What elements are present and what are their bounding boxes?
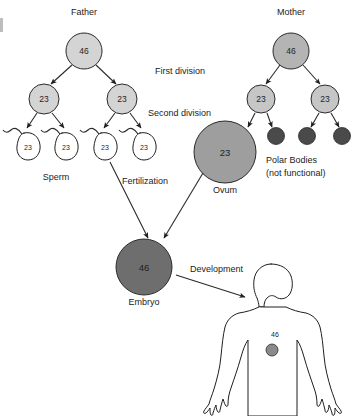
father-secondary-right-count: 23 — [117, 94, 127, 104]
embryo-label: Embryo — [128, 297, 159, 307]
diagram-canvas: Father 46 23 23 23 — [0, 0, 358, 416]
mother-second-division-arrow-to-polar-2 — [311, 113, 319, 127]
father-first-division-arrow-right — [96, 65, 116, 84]
embryo-count: 46 — [139, 262, 150, 273]
father-secondary-cell-left: 23 — [29, 84, 59, 114]
mother-secondary-left-count: 23 — [256, 94, 266, 104]
polar-bodies-label-line1: Polar Bodies — [266, 155, 318, 165]
mother-label: Mother — [277, 7, 305, 17]
father-first-division-arrow-left — [51, 65, 72, 84]
polar-body-1 — [268, 128, 285, 145]
sperm-cell-4: 23 — [119, 128, 156, 160]
first-division-label: First division — [155, 66, 205, 76]
meiosis-fertilization-diagram: Father 46 23 23 23 — [0, 0, 358, 416]
mother-second-division-arrow-to-ovum — [248, 113, 255, 127]
ovum-cell: 23 — [194, 121, 256, 183]
development-arrow — [176, 275, 245, 297]
mother-second-division-arrow-to-polar-1 — [267, 113, 272, 127]
father-second-division-arrow-3 — [104, 113, 115, 128]
polar-body-2 — [299, 128, 316, 145]
mother-secondary-cell-right: 23 — [311, 85, 339, 113]
second-division-label: Second division — [148, 108, 211, 118]
mother-germ-cell: 46 — [273, 33, 309, 69]
ovum-count: 23 — [220, 147, 231, 158]
father-secondary-left-count: 23 — [39, 94, 49, 104]
adult-chromosome-dot — [266, 344, 278, 356]
mother-germ-cell-count: 46 — [286, 46, 296, 56]
father-second-division-arrow-1 — [27, 113, 37, 128]
father-second-division-arrow-2 — [52, 113, 64, 128]
mother-first-division-arrow-right — [303, 65, 320, 84]
mother-second-division-arrow-to-polar-3 — [331, 113, 339, 127]
sperm-4-count: 23 — [140, 144, 148, 151]
development-label: Development — [190, 264, 244, 274]
father-second-division-arrow-4 — [130, 113, 141, 128]
mother-secondary-right-count: 23 — [320, 94, 330, 104]
fertilization-arrow-ovum — [164, 173, 203, 238]
polar-bodies-label-line2: (not functional) — [266, 168, 326, 178]
sperm-cell-3: 23 — [80, 128, 117, 160]
father-label: Father — [71, 7, 97, 17]
embryo-cell: 46 — [116, 239, 172, 295]
mother-first-division-arrow-left — [266, 65, 280, 84]
scan-artifact — [0, 18, 3, 32]
sperm-cell-1: 23 — [3, 128, 40, 160]
ovum-label: Ovum — [213, 185, 237, 195]
polar-body-3 — [334, 128, 351, 145]
father-germ-cell: 46 — [66, 33, 102, 69]
sperm-2-count: 23 — [62, 144, 70, 151]
adult-human-figure: 46 — [204, 264, 342, 416]
sperm-cell-2: 23 — [41, 128, 78, 160]
fertilization-arrow-sperm — [110, 162, 148, 238]
father-secondary-cell-right: 23 — [107, 84, 137, 114]
sperm-1-count: 23 — [24, 144, 32, 151]
fertilization-label: Fertilization — [122, 176, 168, 186]
mother-secondary-cell-left: 23 — [247, 85, 275, 113]
father-germ-cell-count: 46 — [79, 46, 89, 56]
sperm-3-count: 23 — [101, 144, 109, 151]
adult-chromosome-count: 46 — [271, 331, 279, 338]
sperm-label: Sperm — [43, 172, 70, 182]
